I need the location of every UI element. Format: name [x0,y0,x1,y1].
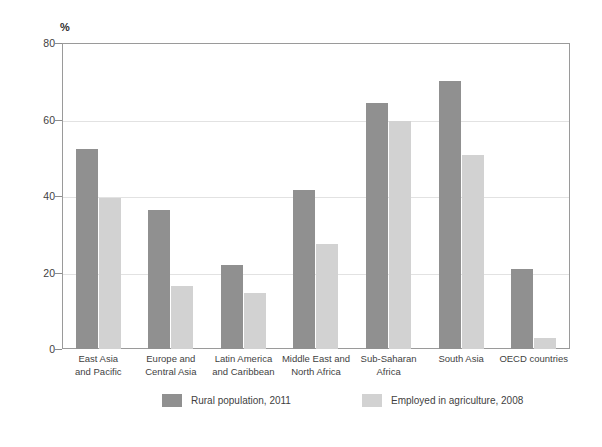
x-axis-label-line: and Pacific [62,366,135,379]
y-tick-label: 80 [21,37,55,49]
bar [462,155,484,349]
y-axis: 020406080 [0,43,55,349]
y-axis-title: % [60,21,70,33]
y-tick-label: 0 [21,343,55,355]
bar-group [135,43,208,349]
legend-item[interactable]: Employed in agriculture, 2008 [362,392,523,408]
bar [316,244,338,349]
chart-figure: % 020406080 East Asiaand PacificEurope a… [0,0,602,447]
bar [389,121,411,349]
legend-swatch [162,394,182,407]
bar [76,149,98,349]
bar [293,190,315,350]
bar [221,265,243,349]
legend-label: Employed in agriculture, 2008 [391,395,523,406]
x-axis-label: Middle East andNorth Africa [280,353,353,378]
y-tick-mark [55,196,62,197]
x-axis-label-line: South Asia [425,353,498,366]
x-axis-label: Latin Americaand Caribbean [207,353,280,378]
x-axis-label-line: and Caribbean [207,366,280,379]
legend-swatch [362,394,382,407]
y-tick-mark [55,43,62,44]
x-axis-label-line: North Africa [280,366,353,379]
bar [148,210,170,349]
y-tick-mark [55,349,62,350]
y-tick-label: 40 [21,190,55,202]
chart-legend: Rural population, 2011Employed in agricu… [0,392,602,412]
bar-group [207,43,280,349]
x-axis-label: Sub-SaharanAfrica [352,353,425,378]
bars-layer [62,43,570,349]
x-axis-label: South Asia [425,353,498,366]
x-axis-label-line: Middle East and [280,353,353,366]
x-axis-label: OECD countries [497,353,570,366]
bar [171,286,193,349]
x-axis-label-line: Europe and [135,353,208,366]
x-axis-label-line: East Asia [62,353,135,366]
x-axis-label: Europe andCentral Asia [135,353,208,378]
x-axis-label-line: Africa [352,366,425,379]
bar [534,338,556,349]
bar-group [280,43,353,349]
y-tick-mark [55,273,62,274]
bar-group [425,43,498,349]
bar [366,103,388,349]
bar [99,198,121,349]
bar [439,81,461,350]
legend-item[interactable]: Rural population, 2011 [162,392,291,408]
x-axis-label-line: OECD countries [497,353,570,366]
bar-group [497,43,570,349]
x-axis-label-line: Sub-Saharan [352,353,425,366]
x-axis-labels: East Asiaand PacificEurope andCentral As… [62,353,570,387]
y-tick-mark [55,120,62,121]
bar [511,269,533,349]
legend-label: Rural population, 2011 [191,395,291,406]
x-axis-label: East Asiaand Pacific [62,353,135,378]
bar [244,293,266,349]
x-axis-label-line: Central Asia [135,366,208,379]
bar-group [62,43,135,349]
bar-group [352,43,425,349]
y-tick-label: 20 [21,267,55,279]
y-tick-label: 60 [21,114,55,126]
x-axis-label-line: Latin America [207,353,280,366]
